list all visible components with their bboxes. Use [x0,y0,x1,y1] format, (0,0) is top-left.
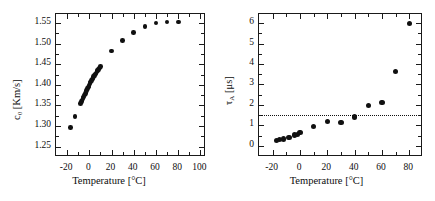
data-point [120,38,125,43]
y-tick-major [199,64,204,65]
y-tick-minor [56,54,59,55]
x-tick-major [89,150,90,155]
data-point [154,21,159,26]
y-tick-major [259,23,264,24]
y-tick-minor [259,95,262,96]
y-tick-minor [418,33,421,34]
y-tick-minor [201,54,204,55]
y-tick-label: 1.40 [27,79,51,89]
x-tick-major [273,14,274,19]
y-tick-minor [418,74,421,75]
x-tick-major [382,14,383,19]
x-tick-minor [78,152,79,155]
plot-area-b [259,14,421,155]
y-tick-major [259,64,264,65]
x-tick-major [300,14,301,19]
y-tick-label: 1.25 [27,141,51,151]
y-axis-title-b: τA [μs] [224,76,236,105]
x-tick-major [67,150,68,155]
y-axis-title-a: c0 [Km/s] [12,79,24,120]
data-point [286,135,291,140]
y-tick-minor [201,95,204,96]
y-tick-major [199,44,204,45]
y-tick-minor [56,75,59,76]
x-tick-label: -20 [265,163,278,173]
y-tick-minor [56,116,59,117]
y-tick-minor [418,95,421,96]
x-tick-label: 40 [128,163,138,173]
y-tick-label: 4 [246,58,254,68]
y-tick-major [199,105,204,106]
figure-container: -200204060801001.251.301.351.401.451.501… [0,0,435,201]
y-tick-major [56,105,61,106]
x-tick-minor [341,152,342,155]
y-tick-major [416,146,421,147]
x-tick-major [200,150,201,155]
x-tick-major [200,14,201,19]
x-tick-major [134,14,135,19]
y-tick-minor [201,75,204,76]
y-tick-major [416,23,421,24]
x-tick-minor [123,14,124,17]
y-tick-major [199,23,204,24]
plot-frame-a [55,13,205,156]
x-tick-minor [145,14,146,17]
y-tick-major [199,85,204,86]
x-tick-major [409,14,410,19]
x-tick-label: 80 [404,163,414,173]
x-tick-major [67,14,68,19]
y-axis-title-a-unit: [Km/s] [11,79,22,111]
x-tick-minor [145,152,146,155]
y-tick-major [259,44,264,45]
y-tick-label: 0 [246,140,254,150]
y-axis-title-b-sub: A [228,96,236,101]
x-tick-major [273,150,274,155]
x-tick-major [327,150,328,155]
x-tick-major [382,150,383,155]
panel-a: -200204060801001.251.301.351.401.451.501… [0,0,218,201]
y-tick-label: 1.55 [27,17,51,27]
x-tick-label: 100 [192,163,206,173]
data-point [366,103,371,108]
data-point [98,64,103,69]
y-tick-minor [259,54,262,55]
x-tick-major [300,150,301,155]
y-axis-title-b-main: τ [223,101,234,105]
x-tick-minor [286,152,287,155]
panel-b: -200204060800123456 Temperature [°C] τA … [218,0,435,201]
x-tick-minor [167,14,168,17]
y-tick-minor [259,115,262,116]
x-tick-minor [396,14,397,17]
x-tick-label: 80 [172,163,182,173]
y-tick-major [199,126,204,127]
y-tick-major [56,85,61,86]
x-tick-major [327,14,328,19]
y-tick-minor [259,33,262,34]
x-tick-label: 20 [106,163,116,173]
x-tick-minor [100,14,101,17]
y-tick-major [416,64,421,65]
x-tick-label: 60 [376,163,386,173]
y-tick-label: 6 [246,17,254,27]
x-tick-major [112,150,113,155]
x-tick-minor [167,152,168,155]
y-tick-major [416,84,421,85]
x-tick-major [89,14,90,19]
y-axis-title-a-sub: 0 [16,112,24,116]
x-tick-label: 40 [349,163,359,173]
x-tick-major [156,14,157,19]
x-axis-title-a: Temperature [°C] [72,176,146,187]
data-point [379,100,384,105]
y-tick-minor [418,54,421,55]
data-point [165,20,170,25]
y-tick-minor [259,74,262,75]
y-tick-major [259,146,264,147]
data-point [68,125,73,130]
y-tick-minor [418,136,421,137]
y-tick-minor [201,33,204,34]
x-tick-major [112,14,113,19]
x-tick-minor [78,14,79,17]
data-point [352,114,357,119]
y-tick-major [259,84,264,85]
y-axis-title-b-unit: [μs] [223,76,234,95]
